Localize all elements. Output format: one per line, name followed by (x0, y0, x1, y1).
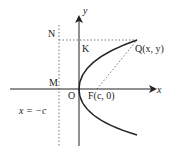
point-m-label: M (49, 77, 58, 88)
point-k-label: K (82, 43, 90, 54)
directrix-label: x = −c (18, 105, 47, 116)
x-axis-label: x (156, 84, 162, 95)
point-q-label: Q(x, y) (135, 43, 164, 55)
point-n-label: N (48, 28, 55, 39)
parabola-curve (79, 40, 137, 135)
parabola-diagram: y x N K M O F(c, 0) Q(x, y) x = −c (0, 0, 170, 157)
y-axis-label: y (82, 5, 88, 16)
focus-label: F(c, 0) (88, 90, 115, 102)
origin-label: O (68, 90, 75, 101)
